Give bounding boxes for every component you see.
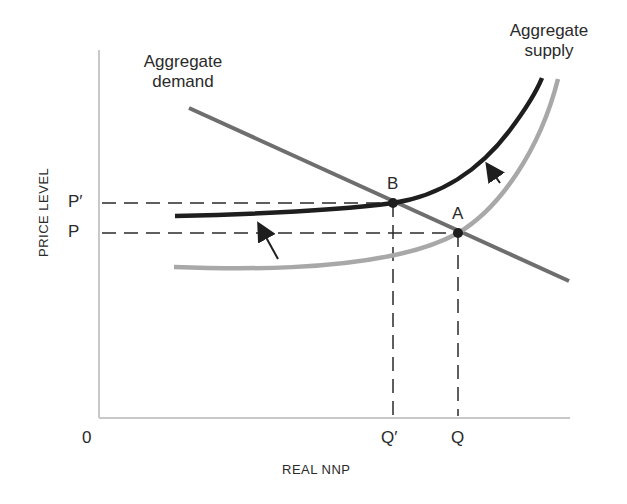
aggregate-supply-label-line1: Aggregate — [494, 21, 604, 41]
point-a-label: A — [452, 204, 463, 224]
aggregate-supply-shifted-curve — [175, 78, 542, 216]
point-a-marker — [453, 228, 463, 238]
shift-arrow-left-icon — [262, 230, 278, 259]
origin-label: 0 — [82, 428, 91, 448]
aggregate-demand-label-line2: demand — [128, 72, 238, 92]
aggregate-demand-line — [189, 108, 569, 281]
q-prime-tick-label: Q′ — [381, 428, 397, 448]
q-tick-label: Q — [451, 428, 464, 448]
y-axis-title: PRICE LEVEL — [36, 168, 51, 257]
shift-arrow-right-icon — [491, 170, 500, 183]
economics-diagram — [0, 0, 627, 504]
aggregate-supply-label-line2: supply — [494, 41, 604, 61]
point-b-label: B — [387, 174, 398, 194]
aggregate-demand-label-line1: Aggregate — [128, 52, 238, 72]
aggregate-demand-label: Aggregate demand — [128, 52, 238, 92]
aggregate-supply-original-curve — [174, 79, 558, 268]
point-b-marker — [388, 198, 398, 208]
p-prime-tick-label: P′ — [68, 192, 83, 212]
aggregate-supply-label: Aggregate supply — [494, 21, 604, 61]
x-axis-title: REAL NNP — [282, 462, 351, 477]
p-tick-label: P — [68, 222, 79, 242]
